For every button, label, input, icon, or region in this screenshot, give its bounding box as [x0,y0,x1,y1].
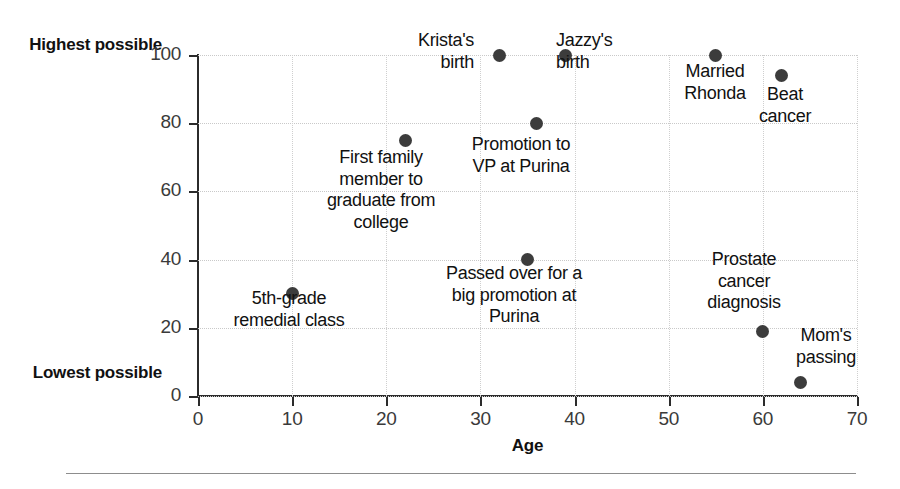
x-axis-title: Age [198,436,857,456]
point-annotation: Married Rhonda [684,61,745,104]
y-axis-tick-label: 40 [119,248,181,270]
x-axis-tick-label: 0 [168,408,228,430]
x-axis-tick [763,397,765,406]
gridline-horizontal [198,191,857,192]
y-axis-low-label: Lowest possible [22,363,162,382]
y-axis-tick [189,191,198,193]
data-point [775,69,788,82]
x-axis-tick [857,397,859,406]
y-axis-tick [189,123,198,125]
y-axis-tick-label: 60 [119,179,181,201]
gridline-vertical [857,55,858,396]
point-annotation: Passed over for a big promotion at Purin… [446,263,582,328]
y-axis-tick-label: 80 [119,111,181,133]
point-annotation: Beat cancer [759,84,811,127]
x-axis-tick [386,397,388,406]
y-axis-tick [189,260,198,262]
point-annotation: Jazzy's birth [556,30,612,73]
point-annotation: Promotion to VP at Purina [472,134,570,177]
y-axis-tick-label: 0 [119,384,181,406]
x-axis-tick [480,397,482,406]
x-axis-tick-label: 20 [356,408,416,430]
x-axis-tick-label: 50 [639,408,699,430]
data-point [493,49,506,62]
x-axis-tick-label: 10 [262,408,322,430]
x-axis-tick [669,397,671,406]
data-point [399,134,412,147]
data-point [756,325,769,338]
footer-rule [66,473,856,474]
x-axis-tick-label: 70 [827,408,887,430]
y-axis-tick-label: 100 [119,43,181,65]
gridline-vertical [292,55,293,396]
y-axis-tick [189,328,198,330]
gridline-vertical [480,55,481,396]
x-axis-tick [575,397,577,406]
x-axis-tick-label: 40 [545,408,605,430]
scatter-plot-figure: Highest possible Lowest possible 0204060… [0,0,900,489]
point-annotation: Mom's passing [796,325,856,368]
gridline-vertical [575,55,576,396]
x-axis-tick [198,397,200,406]
point-annotation: 5th-grade remedial class [234,288,345,331]
y-axis-tick [189,55,198,57]
point-annotation: Prostate cancer diagnosis [707,249,780,314]
point-annotation: First family member to graduate from col… [327,147,435,233]
gridline-vertical [669,55,670,396]
gridline-horizontal [198,55,857,56]
y-axis-tick-label: 20 [119,316,181,338]
x-axis-tick-label: 60 [733,408,793,430]
data-point [530,117,543,130]
gridline-horizontal [198,396,857,397]
y-axis-tick [189,396,198,398]
x-axis-tick-label: 30 [450,408,510,430]
data-point [709,49,722,62]
point-annotation: Krista's birth [418,30,474,73]
x-axis-tick [292,397,294,406]
data-point [794,376,807,389]
